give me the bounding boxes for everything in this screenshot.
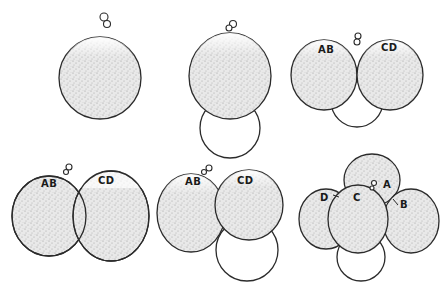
polar-body [104,21,111,28]
polar-body [226,25,232,31]
panel-stage-4: AB CD [12,164,150,261]
polar-body [100,13,108,21]
polar-body [202,170,207,175]
label-cd: CD [98,175,115,186]
label-a: A [383,179,391,190]
polar-body [64,170,69,175]
label-cd: CD [237,175,254,186]
panel-stage-6: A B C D [299,154,439,281]
label-ab: AB [185,176,201,187]
label-ab: AB [41,178,57,189]
egg-highlight [59,37,141,119]
label-c: C [353,192,361,203]
label-b: B [400,199,408,210]
polar-body [355,33,361,39]
polar-body [372,181,377,186]
panel-stage-3: AB CD [291,33,423,127]
label-d: D [320,192,329,203]
panel-stage-5: AB CD [157,165,283,281]
blastomere-b [383,189,439,253]
label-ab: AB [318,44,334,55]
polar-body [370,186,374,190]
panel-stage-1 [59,13,141,119]
polar-body [354,39,360,45]
label-cd: CD [381,42,398,53]
cleavage-diagram: AB CD AB CD AB CD A B C D [0,0,444,288]
polar-body [206,165,212,171]
panel-stage-2 [189,21,271,159]
